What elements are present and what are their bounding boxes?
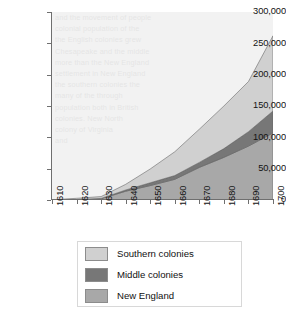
x-axis-tick-mark-1630: [101, 200, 102, 204]
y-axis-tick-label-300000: 300,000: [240, 7, 286, 16]
x-axis-tick-mark-1680: [224, 200, 225, 204]
legend-item-new-england: New England: [85, 288, 174, 304]
y-axis-tick-label-200000: 200,000: [240, 70, 286, 79]
x-axis-tick-label-1610: 1610: [56, 186, 65, 206]
x-axis-tick-label-1650: 1650: [154, 186, 163, 206]
y-axis-tick-mark-250000: [47, 43, 51, 44]
x-axis-tick-label-1660: 1660: [179, 186, 188, 206]
y-axis-tick-label-150000: 150,000: [240, 101, 286, 110]
x-axis-tick-label-1640: 1640: [130, 186, 139, 206]
population-area-chart: and the movement of peoplecolonial popul…: [0, 0, 286, 312]
chart-legend: Southern colonies Middle colonies New En…: [77, 241, 242, 307]
legend-swatch-middle-colonies: [85, 268, 108, 282]
y-axis-tick-label-50000: 50,000: [240, 164, 286, 173]
y-axis-tick-label-100000: 100,000: [240, 133, 286, 142]
legend-swatch-southern-colonies: [85, 247, 108, 261]
legend-label-southern-colonies: Southern colonies: [117, 249, 194, 259]
x-axis-tick-mark-1620: [77, 200, 78, 204]
x-axis-tick-mark-1640: [126, 200, 127, 204]
x-axis-tick-mark-1660: [175, 200, 176, 204]
y-axis-tick-mark-0: [47, 200, 51, 201]
x-axis-tick-mark-1700: [273, 200, 274, 204]
legend-label-new-england: New England: [117, 291, 174, 301]
x-axis-tick-label-1630: 1630: [105, 186, 114, 206]
y-axis-line: [51, 12, 52, 200]
y-axis-tick-mark-100000: [47, 137, 51, 138]
x-axis-tick-mark-1670: [199, 200, 200, 204]
legend-item-middle-colonies: Middle colonies: [85, 267, 183, 283]
x-axis-tick-label-1680: 1680: [228, 186, 237, 206]
x-axis-tick-mark-1610: [52, 200, 53, 204]
x-axis-tick-label-1670: 1670: [203, 186, 212, 206]
legend-label-middle-colonies: Middle colonies: [117, 270, 183, 280]
y-axis-tick-mark-50000: [47, 169, 51, 170]
legend-item-southern-colonies: Southern colonies: [85, 246, 194, 262]
y-axis-tick-label-250000: 250,000: [240, 39, 286, 48]
y-axis-tick-mark-300000: [47, 12, 51, 13]
x-axis-tick-label-1690: 1690: [252, 186, 261, 206]
x-axis-tick-label-1700: 1700: [277, 186, 286, 206]
legend-swatch-new-england: [85, 289, 108, 303]
x-axis-tick-label-1620: 1620: [81, 186, 90, 206]
y-axis-tick-mark-200000: [47, 75, 51, 76]
y-axis-tick-mark-150000: [47, 106, 51, 107]
x-axis-tick-mark-1690: [248, 200, 249, 204]
x-axis-tick-mark-1650: [150, 200, 151, 204]
